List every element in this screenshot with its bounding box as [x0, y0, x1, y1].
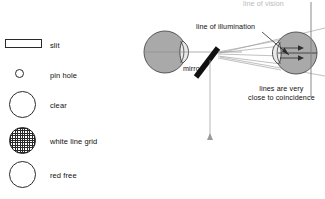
- legend-label-slit: slit: [50, 28, 60, 62]
- legend-item-pin-hole: pin hole: [0, 58, 140, 92]
- legend-item-white-line-grid: white line grid: [0, 124, 140, 158]
- legend-label-pin-hole: pin hole: [50, 58, 77, 92]
- label-mirror: mirror: [183, 64, 202, 73]
- label-coincidence-line-2: close to coincidence: [248, 93, 315, 102]
- legend-item-slit: slit: [0, 28, 140, 62]
- vertical-reference-line-left: [207, 60, 213, 140]
- legend-item-red-free: red free: [0, 158, 140, 192]
- pinhole-circle-icon: [0, 58, 46, 92]
- legend-label-clear: clear: [50, 88, 67, 122]
- clear-circle-icon: [0, 88, 46, 122]
- red-free-circle-icon: [0, 158, 46, 192]
- slit-rectangle-icon: [0, 28, 46, 62]
- label-top-cropped: line of vision: [243, 0, 284, 8]
- label-coincidence-line-1: lines are very: [259, 84, 303, 93]
- aperture-legend: slit pin hole clear white line grid red: [0, 0, 140, 199]
- label-line-of-illumination: line of illumination: [196, 22, 255, 31]
- grid-circle-icon: [0, 124, 46, 158]
- legend-label-white-line-grid: white line grid: [50, 124, 97, 158]
- legend-label-red-free: red free: [50, 158, 77, 192]
- legend-item-clear: clear: [0, 88, 140, 122]
- ophthalmoscope-ray-diagram: line of illumination mirror lines are ve…: [138, 0, 325, 199]
- figure-canvas: slit pin hole clear white line grid red: [0, 0, 325, 199]
- label-lines-are-very-close-to-coincidence: lines are very close to coincidence: [248, 84, 315, 102]
